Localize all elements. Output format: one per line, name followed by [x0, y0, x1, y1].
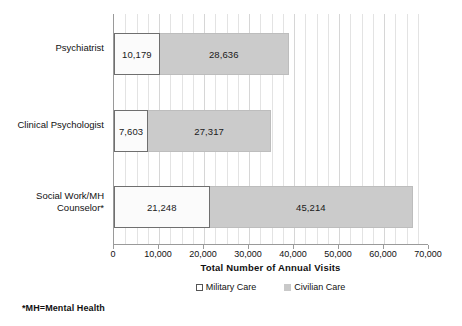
bar-value-label: 28,636 [209, 49, 239, 60]
legend-item-military-care: Military Care [196, 282, 257, 292]
x-tick-label: 70,000 [414, 249, 442, 259]
legend-label: Civilian Care [294, 282, 345, 292]
x-tick-label: 20,000 [189, 249, 217, 259]
bar-row: 21,248 45,214 [114, 186, 413, 228]
x-tick-label: 10,000 [144, 249, 172, 259]
x-tick-label: 40,000 [279, 249, 307, 259]
bar-value-label: 21,248 [147, 202, 177, 213]
bar-segment-military: 10,179 [114, 33, 160, 75]
bar-value-label: 7,603 [119, 126, 143, 137]
footnote: *MH=Mental Health [22, 303, 105, 313]
bar-value-label: 45,214 [296, 202, 326, 213]
legend-item-civilian-care: Civilian Care [284, 282, 345, 292]
bar-value-label: 10,179 [122, 49, 152, 60]
bar-row: 10,179 28,636 [114, 33, 289, 75]
plot-area: 10,179 28,636 7,603 27,317 21,248 45,214 [113, 14, 428, 245]
bar-value-label: 27,317 [194, 126, 224, 137]
bar-segment-military: 21,248 [114, 186, 210, 228]
x-tick-label: 50,000 [324, 249, 352, 259]
military-swatch-icon [196, 284, 203, 291]
bar-segment-civilian: 27,317 [148, 110, 271, 152]
bar-row: 7,603 27,317 [114, 110, 271, 152]
x-axis-ticks: 010,00020,00030,00040,00050,00060,00070,… [113, 245, 428, 259]
x-tick-label: 60,000 [369, 249, 397, 259]
category-label-clinical-psychologist: Clinical Psychologist [0, 119, 104, 131]
x-axis-title: Total Number of Annual Visits [113, 262, 428, 273]
category-axis-labels: Psychiatrist Clinical Psychologist Socia… [0, 14, 108, 245]
category-label-psychiatrist: Psychiatrist [0, 42, 104, 54]
x-tick-label: 30,000 [234, 249, 262, 259]
chart-screenshot: Psychiatrist Clinical Psychologist Socia… [0, 0, 462, 326]
civilian-swatch-icon [284, 284, 291, 291]
chart-legend: Military Care Civilian Care [113, 282, 428, 292]
legend-label: Military Care [206, 282, 257, 292]
category-label-social-work-mh-counselor: Social Work/MH Counselor* [0, 190, 104, 213]
x-tick-label: 0 [110, 249, 115, 259]
bar-segment-civilian: 28,636 [160, 33, 289, 75]
bar-segment-civilian: 45,214 [210, 186, 413, 228]
gridline [418, 14, 419, 244]
bar-segment-military: 7,603 [114, 110, 148, 152]
